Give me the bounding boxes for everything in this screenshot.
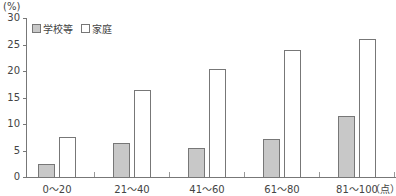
legend-swatch-home xyxy=(81,24,90,33)
x-tick-label: 0～20 xyxy=(22,181,92,196)
x-tick-label: 41～60 xyxy=(172,181,242,196)
y-tick-label: 10 xyxy=(0,119,20,129)
x-tick xyxy=(394,172,395,177)
bar-home xyxy=(59,137,76,178)
bar-home xyxy=(284,50,301,178)
x-tick xyxy=(169,172,170,177)
y-axis-unit: (%) xyxy=(3,1,20,12)
x-tick-label: 61～80 xyxy=(247,181,317,196)
x-tick xyxy=(319,172,320,177)
bar-school xyxy=(113,143,130,178)
y-tick-label: 15 xyxy=(0,93,20,103)
legend: 学校等 家庭 xyxy=(32,21,112,36)
bar-chart: (%) 051015202530 0～2021～4041～6061～8081～1… xyxy=(0,0,396,196)
bar-home xyxy=(209,69,226,178)
y-tick-label: 25 xyxy=(0,40,20,50)
legend-swatch-school xyxy=(32,24,41,33)
y-tick-label: 0 xyxy=(0,172,20,182)
bar-school xyxy=(263,139,280,178)
bar-home xyxy=(359,39,376,178)
bar-school xyxy=(38,164,55,178)
y-tick-label: 30 xyxy=(0,13,20,23)
y-tick-label: 20 xyxy=(0,66,20,76)
legend-label-home: 家庭 xyxy=(92,21,112,36)
legend-label-school: 学校等 xyxy=(43,21,73,36)
x-axis-unit: （点） xyxy=(370,181,396,196)
bar-school xyxy=(188,148,205,178)
y-axis xyxy=(26,18,27,177)
bar-home xyxy=(134,90,151,178)
bar-school xyxy=(338,116,355,178)
x-tick xyxy=(94,172,95,177)
x-tick-label: 21～40 xyxy=(97,181,167,196)
y-tick-label: 5 xyxy=(0,146,20,156)
x-tick xyxy=(244,172,245,177)
